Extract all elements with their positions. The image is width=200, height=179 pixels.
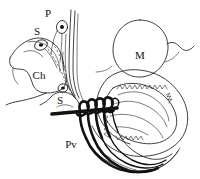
label-ch: Ch — [33, 69, 46, 81]
label-m: M — [135, 49, 145, 61]
label-s-lower: S — [57, 94, 63, 106]
anatomical-figure: P S Ch S Pv M — [0, 0, 200, 179]
label-p: P — [45, 7, 51, 19]
label-s-upper: S — [34, 25, 40, 37]
label-pv: Pv — [65, 138, 77, 150]
anatomy-drawing: P S Ch S Pv M — [0, 0, 200, 179]
